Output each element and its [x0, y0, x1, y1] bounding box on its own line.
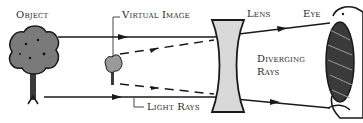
- label-lens: Lens: [247, 8, 270, 19]
- label-rays: Rays: [257, 66, 280, 77]
- tree-object-icon: [10, 26, 59, 104]
- label-virtual-image: Virtual Image: [122, 9, 190, 20]
- virtual-image-tree-icon: [105, 55, 122, 85]
- dashed-virtual-rays: [120, 40, 214, 94]
- diagram-concave-lens-virtual-image: Object Virtual Image Lens Eye Diverging …: [0, 0, 363, 123]
- label-object: Object: [16, 9, 48, 20]
- concave-lens-icon: [212, 20, 244, 112]
- label-diverging: Diverging: [257, 53, 305, 64]
- eye-head-icon: [326, 7, 363, 118]
- label-eye: Eye: [303, 8, 321, 19]
- light-rays-leader: [134, 98, 144, 107]
- top-light-ray: [58, 23, 330, 40]
- label-light-rays: Light Rays: [147, 101, 200, 112]
